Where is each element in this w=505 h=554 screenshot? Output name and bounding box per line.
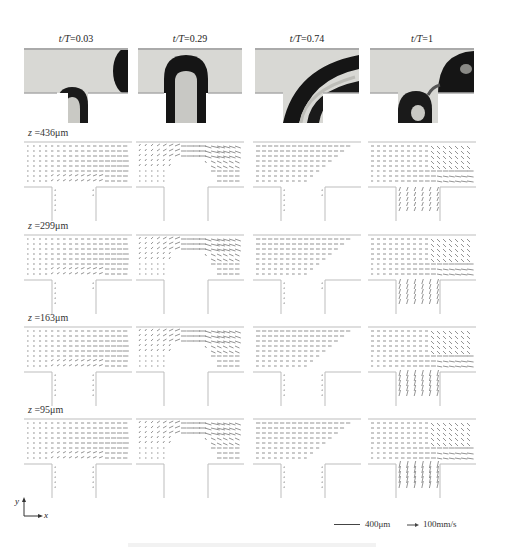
x-axis-label: x <box>44 510 48 520</box>
velocity-field-panel <box>136 418 244 496</box>
velocity-field-panel <box>24 234 132 312</box>
velocity-field-panel <box>136 234 244 312</box>
velocity-scale-legend: 100mm/s <box>407 519 457 529</box>
micrograph-t074 <box>255 47 359 123</box>
velocity-field-panel <box>368 234 476 312</box>
micrograph-t1 <box>370 47 474 123</box>
velocity-field-panel <box>368 326 476 404</box>
velocity-scale-label: 100mm/s <box>423 519 457 529</box>
velocity-arrow-icon <box>407 522 419 528</box>
figure-caption-faded <box>128 543 376 547</box>
velocity-field-panel <box>136 326 244 404</box>
velocity-field-panel <box>24 326 132 404</box>
velocity-field-panel <box>253 418 361 496</box>
velocity-field-panel <box>253 326 361 404</box>
velocity-field-panel <box>136 141 244 219</box>
length-scale-label: 400μm <box>365 519 390 529</box>
micrograph-t029 <box>138 47 242 123</box>
velocity-field-panel <box>24 141 132 219</box>
axes-indicator: y x <box>14 494 54 520</box>
velocity-field-panel <box>24 418 132 496</box>
velocity-field-panel <box>253 234 361 312</box>
column-title-3: t/T=0.74 <box>255 33 359 44</box>
column-title-2: t/T=0.29 <box>138 33 242 44</box>
length-scale-legend: 400μm <box>334 519 390 529</box>
column-title-4: t/T=1 <box>370 33 474 44</box>
column-title-1: t/T=0.03 <box>24 33 128 44</box>
micrograph-t003 <box>24 47 128 123</box>
velocity-field-panel <box>253 141 361 219</box>
scale-bar <box>334 524 360 525</box>
z-label-row-2: z =299μm <box>28 220 68 231</box>
z-label-row-1: z =436μm <box>28 127 68 138</box>
velocity-field-panel <box>368 141 476 219</box>
velocity-field-panel <box>368 418 476 496</box>
y-axis-label: y <box>15 496 19 506</box>
